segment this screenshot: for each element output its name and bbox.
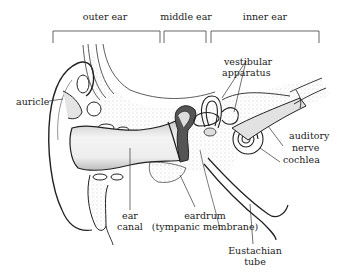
label-cochlea: cochlea bbox=[283, 154, 320, 165]
label-tympanic-membrane: (tympanic membrane) bbox=[144, 221, 266, 232]
label-canal: canal bbox=[115, 221, 145, 232]
label-auricle: auricle bbox=[16, 96, 49, 107]
label-auditory: auditory bbox=[289, 130, 329, 141]
label-ear: ear bbox=[115, 210, 145, 221]
ear-anatomy-diagram: outer ear middle ear inner ear bbox=[0, 0, 341, 280]
label-tube: tube bbox=[222, 256, 288, 267]
label-nerve: nerve bbox=[292, 142, 319, 153]
section-brackets bbox=[53, 31, 319, 43]
label-eardrum: eardrum bbox=[150, 210, 260, 221]
label-apparatus: apparatus bbox=[222, 67, 271, 78]
label-vestibular: vestibular bbox=[224, 56, 272, 67]
label-eustachian: Eustachian bbox=[222, 245, 288, 256]
